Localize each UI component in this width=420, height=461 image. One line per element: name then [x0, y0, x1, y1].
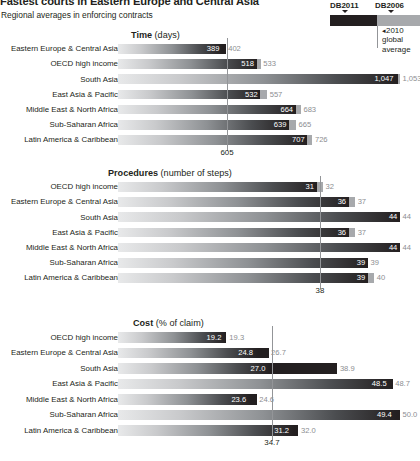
chart-row: Sub-Saharan Africa3939 [0, 258, 420, 268]
value-db2011: 532 [245, 90, 258, 99]
global-average-label: 34.7 [252, 438, 292, 447]
global-average-gridline [320, 176, 321, 289]
value-db2011: 639 [274, 120, 287, 129]
value-db2006: 31.2 [274, 426, 289, 435]
value-db2011: 707 [292, 135, 305, 144]
value-db2011: 31 [306, 182, 314, 191]
row-bar-group: 3637 [118, 228, 402, 238]
value-db2011: 44 [389, 243, 397, 252]
bar-segment-primary [118, 212, 400, 222]
value-db2011: 39 [357, 258, 365, 267]
value-db2006: 557 [270, 90, 283, 99]
value-db2006: 665 [299, 120, 312, 129]
bar-segment-primary [118, 59, 257, 69]
chart-row: Latin America & Caribbean707726 [0, 135, 420, 145]
chart-row: Latin America & Caribbean31.232.0 [0, 425, 420, 436]
row-bar-group: 49.450.0 [118, 410, 402, 421]
row-category-label: OECD high income [50, 182, 118, 191]
row-bar-group: 3132 [118, 182, 402, 192]
legend-label-db2006: DB2006 [375, 1, 404, 10]
value-db2011: 26.7 [271, 348, 286, 357]
page-subtitle: Regional averages in enforcing contracts [1, 10, 153, 20]
chart-row: Middle East & North Africa23.624.6 [0, 394, 420, 405]
global-average-label: 38 [300, 286, 340, 295]
row-bar-group: 518533 [118, 59, 402, 69]
bar-segment-db2006-extra [349, 197, 355, 207]
row-category-label: Middle East & North Africa [26, 105, 118, 114]
bar-segment-db2006-extra [398, 74, 400, 84]
bar-segment-primary [118, 228, 349, 238]
row-bar-group: 1,0471,053 [118, 74, 402, 84]
chart-row: South Asia1,0471,053 [0, 74, 420, 84]
bar-segment-primary [118, 363, 270, 374]
bar-segment-db2006-extra [289, 120, 296, 130]
row-category-label: Latin America & Caribbean [24, 273, 118, 282]
bar-segment-primary [118, 135, 307, 145]
row-category-label: Sub-Saharan Africa [50, 258, 118, 267]
chart-title-unit: (% of claim) [153, 318, 204, 328]
bar-segment-db2011-extra [397, 410, 400, 421]
row-category-label: South Asia [80, 364, 118, 373]
chart-title-metric: Procedures [108, 168, 158, 178]
bar-segment-primary [118, 197, 349, 207]
row-bar-group: 3637 [118, 197, 402, 207]
row-category-label: East Asia & Pacific [52, 379, 118, 388]
chart-row: OECD high income518533 [0, 59, 420, 69]
chart-title-metric: Cost [133, 318, 153, 328]
row-bar-group: 24.826.7 [118, 348, 402, 359]
bar-segment-primary [118, 425, 294, 436]
bar-segment-db2006-extra [368, 273, 374, 283]
row-category-label: South Asia [80, 75, 118, 84]
bar-segment-primary [118, 243, 400, 253]
row-bar-group: 19.219.3 [118, 332, 402, 343]
value-db2011: 38.9 [340, 364, 355, 373]
bar-segment-primary [118, 258, 368, 268]
bar-segment-db2006-extra [296, 105, 301, 115]
row-category-label: OECD high income [50, 59, 118, 68]
value-db2006: 533 [263, 59, 276, 68]
chart-title-metric: Time [131, 30, 152, 40]
bar-segment-db2011-extra [392, 379, 393, 390]
chart-title-unit: (number of steps) [158, 168, 232, 178]
bar-segment-db2011-extra [251, 394, 257, 405]
value-db2011: 19.2 [207, 333, 222, 342]
value-db2006: 683 [303, 105, 316, 114]
legend-pointer-db2011-icon [342, 10, 348, 13]
bar-segment-db2011-extra [258, 348, 269, 359]
value-db2006: 27.0 [251, 364, 266, 373]
row-category-label: Middle East & North Africa [26, 395, 118, 404]
chart-row: Sub-Saharan Africa49.450.0 [0, 410, 420, 421]
value-db2006: 389 [207, 44, 220, 53]
value-db2011: 50.0 [403, 410, 418, 419]
bar-segment-primary [118, 120, 289, 130]
value-db2006: 39 [370, 258, 378, 267]
row-bar-group: 23.624.6 [118, 394, 402, 405]
chart-row: OECD high income19.219.3 [0, 332, 420, 343]
value-db2011: 44 [389, 212, 397, 221]
legend: DB2011 DB2006 ◂2010 global average [330, 1, 420, 12]
value-db2011: 39 [357, 273, 365, 282]
value-db2011: 402 [228, 44, 241, 53]
row-bar-group: 4444 [118, 243, 402, 253]
bar-segment-db2006-extra [307, 135, 312, 145]
chart-row: Latin America & Caribbean3940 [0, 273, 420, 283]
global-average-gridline [227, 38, 228, 151]
bar-segment-db2006-extra [257, 59, 261, 69]
bar-segment-primary [118, 273, 368, 283]
value-db2011: 36 [338, 228, 346, 237]
row-category-label: Eastern Europe & Central Asia [11, 197, 118, 206]
chart-row: Eastern Europe & Central Asia389402 [0, 44, 420, 54]
value-db2011: 664 [280, 105, 293, 114]
row-category-label: Latin America & Caribbean [24, 426, 118, 435]
chart-title-unit: (days) [152, 30, 180, 40]
row-bar-group: 48.548.7 [118, 379, 402, 390]
row-bar-group: 389402 [118, 44, 402, 54]
page-title: Fastest courts in Eastern Europe and Cen… [0, 0, 259, 7]
row-category-label: Middle East & North Africa [26, 243, 118, 252]
row-category-label: Sub-Saharan Africa [50, 120, 118, 129]
bar-segment-primary [118, 182, 317, 192]
value-db2011: 36 [338, 197, 346, 206]
row-bar-group: 31.232.0 [118, 425, 402, 436]
value-db2006: 19.3 [229, 333, 244, 342]
chart-title: Procedures (number of steps) [108, 168, 420, 178]
